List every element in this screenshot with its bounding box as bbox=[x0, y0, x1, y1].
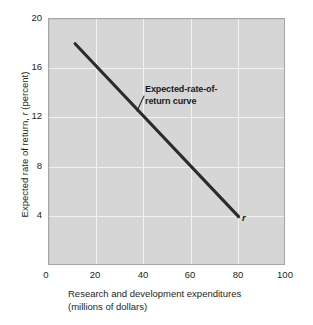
y-axis-title-variable: r bbox=[19, 112, 30, 115]
x-axis-title-line-2: (millions of dollars) bbox=[68, 301, 147, 312]
chart-figure: Expected-rate-of- return curve r 0 20 40… bbox=[0, 0, 313, 325]
x-tick-label-80: 80 bbox=[223, 269, 253, 280]
x-tick-label-40: 40 bbox=[128, 269, 158, 280]
x-axis-title-line-1: Research and development expenditures bbox=[68, 288, 241, 299]
axis-origin-label: 0 bbox=[40, 269, 52, 280]
plot-area bbox=[48, 18, 285, 265]
x-axis-title: Research and development expenditures (m… bbox=[68, 288, 298, 313]
y-axis-title-suffix: (percent) bbox=[19, 72, 30, 113]
x-tick-label-20: 20 bbox=[80, 269, 110, 280]
annotation-line-1: Expected-rate-of- bbox=[145, 84, 217, 94]
x-tick-label-60: 60 bbox=[175, 269, 205, 280]
y-axis-title: Expected rate of return, r (percent) bbox=[19, 40, 30, 250]
curve-endpoint-label: r bbox=[242, 212, 246, 223]
expected-rate-of-return-curve bbox=[49, 19, 286, 266]
curve-annotation: Expected-rate-of- return curve bbox=[145, 84, 265, 107]
y-tick-label-20: 20 bbox=[20, 12, 42, 23]
y-axis-title-prefix: Expected rate of return, bbox=[19, 115, 30, 217]
annotation-leader-line bbox=[137, 96, 144, 111]
annotation-line-2: return curve bbox=[145, 96, 196, 106]
curve-line bbox=[75, 44, 239, 217]
x-tick-label-100: 100 bbox=[270, 269, 300, 280]
